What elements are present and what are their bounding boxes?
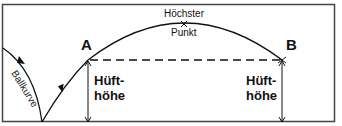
ball-curve-label: Ballkurve — [9, 68, 40, 109]
hip-height-right-label-2: höhe — [246, 88, 277, 103]
ball-curve-rising — [42, 60, 88, 122]
diagram-frame — [3, 5, 335, 122]
point-a-label: A — [81, 37, 92, 52]
hip-height-left-label-2: höhe — [94, 88, 125, 103]
hip-height-left-label-1: Hüft- — [94, 73, 124, 88]
point-b-label: B — [286, 37, 297, 52]
peak-label-line1: Höchster — [164, 9, 204, 19]
arrow-down-icon — [17, 56, 25, 64]
hip-height-right-label-1: Hüft- — [246, 73, 276, 88]
peak-label-line2: Punkt — [171, 28, 197, 38]
